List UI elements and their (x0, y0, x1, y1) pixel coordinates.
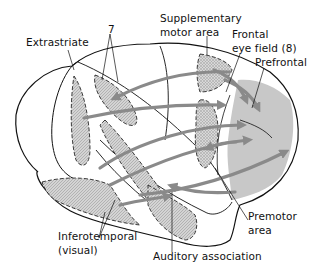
label-area7: 7 (108, 23, 115, 36)
label-fef-1: Frontal (232, 28, 269, 41)
label-extrastriate: Extrastriate (26, 36, 89, 49)
label-inferotemporal-1: Inferotemporal (58, 230, 137, 243)
area7-region (95, 75, 137, 125)
label-prefrontal: Prefrontal (255, 56, 307, 69)
extrastriate-region (71, 76, 90, 165)
label-premotor-2: area (248, 224, 272, 237)
central-sulcus (160, 46, 168, 140)
label-premotor-1: Premotor (248, 210, 297, 223)
label-auditory: Auditory association (153, 250, 262, 263)
label-fef-2: eye field (8) (232, 42, 297, 55)
label-supplementary-2: motor area (160, 26, 219, 39)
premotor-region (195, 100, 218, 168)
label-supplementary-1: Supplementary (160, 12, 242, 25)
label-inferotemporal-2: (visual) (58, 244, 98, 257)
